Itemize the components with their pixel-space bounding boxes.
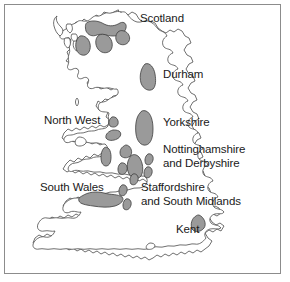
map-label-durham: Durham: [163, 68, 203, 82]
isle-islay: [64, 38, 70, 48]
region-staffordshire-south: [118, 163, 127, 175]
map-label-yorkshire: Yorkshire: [163, 116, 210, 130]
isle-of-wight: [146, 243, 155, 249]
map-label-scotland: Scotland: [140, 12, 184, 26]
region-nottinghamshire-east: [145, 154, 153, 165]
region-north-west-lancashire: [109, 117, 118, 127]
coalfield-map-figure: Scotland Durham North West Yorkshire Not…: [0, 0, 290, 282]
region-leicestershire: [144, 167, 152, 178]
region-bristol-somerset: [123, 199, 131, 210]
region-yorkshire: [136, 111, 153, 146]
map-label-staffordshire-and-south-midlands: Staffordshire and South Midlands: [141, 181, 241, 208]
region-scotland-fife: [116, 31, 130, 45]
map-label-kent: Kent: [176, 223, 199, 237]
region-north-wales: [101, 147, 111, 166]
map-label-north-west: North West: [44, 114, 100, 128]
isle-hebrides-north: [54, 16, 63, 36]
map-label-south-wales: South Wales: [40, 181, 104, 195]
region-forest-of-dean: [119, 185, 127, 196]
map-graphic: [0, 0, 290, 282]
region-warwickshire: [130, 174, 138, 185]
isle-of-man: [76, 98, 79, 106]
great-britain-coastline-detail: [33, 11, 224, 249]
map-label-nottinghamshire-and-derbyshire: Nottinghamshire and Derbyshire: [163, 143, 245, 170]
isle-anglesey: [75, 137, 86, 146]
